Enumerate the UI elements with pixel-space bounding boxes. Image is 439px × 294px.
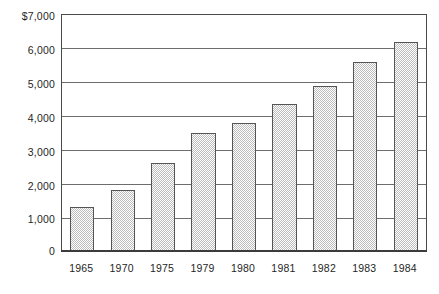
x-axis-tick-1970: 1970 (101, 262, 141, 274)
bar-1983 (353, 62, 377, 251)
bar-1965 (70, 207, 94, 251)
y-axis-tick-4000: 4,000 (0, 113, 55, 124)
bar-1984 (394, 42, 418, 251)
x-axis-tick-1965: 1965 (61, 262, 101, 274)
plot-area (61, 14, 427, 252)
bar-1970 (111, 190, 135, 251)
x-axis-baseline (61, 250, 427, 252)
y-axis-tick-7000: $7,000 (0, 11, 55, 22)
y-axis-tick-3000: 3,000 (0, 147, 55, 158)
bar-1979 (191, 133, 215, 251)
bar-1982 (313, 86, 337, 251)
x-axis-tick-1975: 1975 (142, 262, 182, 274)
y-axis-tick-1000: 1,000 (0, 214, 55, 225)
x-axis-tick-1980: 1980 (223, 262, 263, 274)
y-axis-tick-6000: 6,000 (0, 45, 55, 56)
bar-1980 (232, 123, 256, 251)
x-axis-tick-1983: 1983 (344, 262, 384, 274)
x-axis-tick-1979: 1979 (182, 262, 222, 274)
x-axis-tick-1984: 1984 (385, 262, 425, 274)
bar-1981 (272, 104, 296, 251)
bar-1975 (151, 163, 175, 251)
x-axis-tick-1981: 1981 (263, 262, 303, 274)
y-axis-tick-0: 0 (0, 246, 55, 257)
y-axis-tick-5000: 5,000 (0, 79, 55, 90)
bar-chart: $7,000 6,000 5,000 4,000 3,000 2,000 1,0… (0, 0, 439, 294)
y-axis-tick-2000: 2,000 (0, 181, 55, 192)
bars-layer (62, 15, 426, 251)
y-axis-tick-labels: $7,000 6,000 5,000 4,000 3,000 2,000 1,0… (0, 0, 55, 294)
x-axis-tick-labels: 1965 1970 1975 1979 1980 1981 1982 1983 … (61, 262, 427, 280)
x-axis-tick-1982: 1982 (304, 262, 344, 274)
